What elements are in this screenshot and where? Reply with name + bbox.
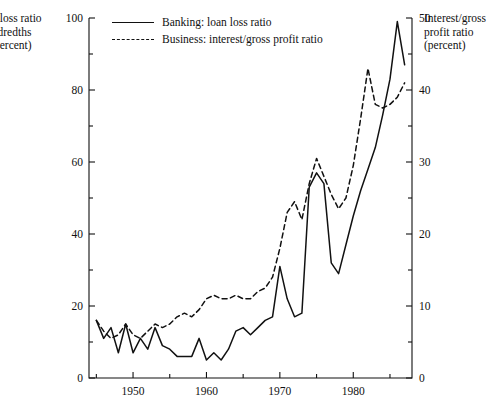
left-tick-label: 80 xyxy=(72,84,84,96)
right-tick-label: 20 xyxy=(419,228,431,240)
left-tick-label: 60 xyxy=(72,156,84,168)
right-tick-label: 40 xyxy=(419,84,431,96)
x-tick-label: 1950 xyxy=(122,385,145,397)
series-line-business xyxy=(96,68,404,338)
left-axis-ticks: 020406080100 xyxy=(66,12,95,384)
left-tick-label: 20 xyxy=(72,300,84,312)
axis-frame-path xyxy=(89,18,412,378)
right-tick-label: 0 xyxy=(419,372,425,384)
x-tick-label: 1960 xyxy=(195,385,218,397)
axis-frame xyxy=(89,18,412,378)
left-tick-label: 0 xyxy=(77,372,83,384)
right-axis-ticks: 01020304050 xyxy=(406,12,431,384)
right-tick-label: 10 xyxy=(419,300,431,312)
x-tick-label: 1970 xyxy=(268,385,291,397)
plot-area: 020406080100 01020304050 195019601970198… xyxy=(0,0,496,418)
right-tick-label: 50 xyxy=(419,12,431,24)
left-tick-label: 100 xyxy=(66,12,84,24)
x-tick-label: 1980 xyxy=(342,385,365,397)
x-axis-ticks: 1950196019701980 xyxy=(96,372,390,397)
series-line-banking xyxy=(96,22,404,360)
data-series-group xyxy=(96,22,404,360)
left-tick-label: 40 xyxy=(72,228,84,240)
right-tick-label: 30 xyxy=(419,156,431,168)
figure-container: an loss ratio undredths a percent) Inter… xyxy=(0,0,496,418)
